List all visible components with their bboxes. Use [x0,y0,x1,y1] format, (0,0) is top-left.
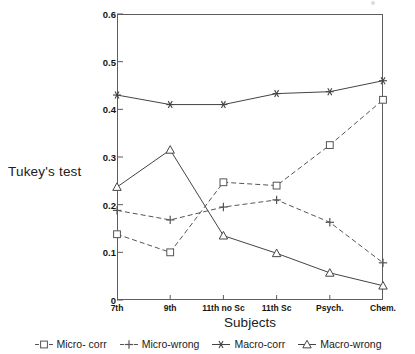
legend-entry: Micro-wrong [119,338,200,350]
chart-figure: Tukey's test 00.10.20.30.40.50.6 7th9th1… [0,0,415,354]
x-axis-title: Subjects [117,315,383,330]
y-axis-tick-labels: 00.10.20.30.40.50.6 [92,0,116,354]
y-tick-label: 0.5 [92,56,116,67]
x-tick-label: Chem. [370,303,396,313]
x-tick-label: 11th no Sc [202,303,245,313]
x-tick-label: Psych. [316,303,343,313]
x-tick-label: 7th [111,303,124,313]
legend-marker-triangle-icon [297,339,317,350]
legend-marker-square-icon [34,339,54,350]
y-tick-label: 0.4 [92,104,116,115]
y-tick-label: 0.3 [92,152,116,163]
legend-entry: Macro-corr [211,338,285,350]
plot-area [117,14,383,300]
legend-label: Micro- corr [57,338,107,350]
legend-marker-plus-icon [119,339,139,350]
y-tick-label: 0.2 [92,199,116,210]
y-tick-label: 0.6 [92,9,116,20]
legend-entry: Macro-wrong [297,338,381,350]
legend-marker-asterisk-icon [211,339,231,350]
legend-label: Macro-corr [234,338,285,350]
legend-entry: Micro- corr [34,338,107,350]
legend-label: Macro-wrong [320,338,381,350]
y-tick-label: 0.1 [92,247,116,258]
marker-square [40,341,47,348]
x-tick-label: 9th [164,303,177,313]
x-tick-label: 11th Sc [262,303,292,313]
legend-label: Micro-wrong [142,338,200,350]
chart-legend: Micro- corrMicro-wrongMacro-corrMacro-wr… [0,334,415,354]
scan-artifact-dot [371,1,375,5]
